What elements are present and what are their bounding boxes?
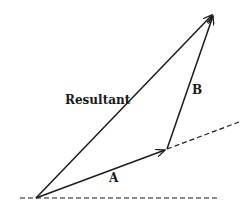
vector-a-label: A bbox=[108, 171, 119, 185]
vector-a-arrow bbox=[36, 150, 165, 198]
vector-b-arrow bbox=[167, 16, 213, 149]
vector-a-extension-dashed-line bbox=[167, 122, 239, 149]
resultant-label: Resultant bbox=[65, 93, 131, 107]
vector-addition-diagram: Resultant B A bbox=[0, 0, 249, 217]
vector-b-label: B bbox=[192, 83, 202, 97]
